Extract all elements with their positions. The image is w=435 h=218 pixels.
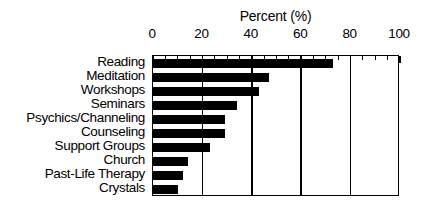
tick-minor-50 xyxy=(276,56,277,60)
tick-major-60 xyxy=(300,56,302,63)
bar xyxy=(153,157,188,166)
bars-layer xyxy=(153,56,398,195)
bar xyxy=(153,171,183,180)
tick-major-40 xyxy=(251,56,253,63)
x-axis-tick-labels: 020406080100 xyxy=(0,26,435,42)
tick-minor-70 xyxy=(325,56,326,60)
category-label: Reading xyxy=(97,55,145,69)
bar-chart: Percent (%) 020406080100 ReadingMeditati… xyxy=(0,0,435,218)
gridline-20 xyxy=(202,56,204,195)
x-tick-label-0: 0 xyxy=(148,26,155,42)
bar xyxy=(153,115,225,124)
tick-minor-35 xyxy=(239,56,240,60)
x-axis-title: Percent (%) xyxy=(152,8,399,24)
bar xyxy=(153,87,259,96)
category-label: Meditation xyxy=(86,69,145,83)
tick-minor-65 xyxy=(313,56,314,60)
category-label: Psychics/Channeling xyxy=(26,111,145,125)
tick-minor-10 xyxy=(177,56,178,60)
gridline-60 xyxy=(300,56,302,195)
y-axis-category-labels: ReadingMeditationWorkshopsSeminarsPsychi… xyxy=(0,55,149,196)
category-label: Workshops xyxy=(81,83,145,97)
gridline-40 xyxy=(251,56,253,195)
gridline-80 xyxy=(350,56,352,195)
plot-area xyxy=(152,55,399,196)
x-tick-label-100: 100 xyxy=(388,26,410,42)
tick-minor-30 xyxy=(227,56,228,60)
tick-major-0 xyxy=(152,56,154,63)
tick-minor-5 xyxy=(165,56,166,60)
tick-minor-85 xyxy=(362,56,363,60)
tick-minor-75 xyxy=(338,56,339,60)
bar xyxy=(153,129,225,138)
tick-major-100 xyxy=(399,56,401,63)
tick-major-20 xyxy=(202,56,204,63)
tick-minor-90 xyxy=(375,56,376,60)
category-label: Support Groups xyxy=(55,139,145,153)
tick-major-80 xyxy=(350,56,352,63)
category-label: Seminars xyxy=(91,97,145,111)
tick-minor-45 xyxy=(264,56,265,60)
x-tick-label-60: 60 xyxy=(293,26,307,42)
tick-minor-15 xyxy=(190,56,191,60)
bar xyxy=(153,101,237,110)
tick-minor-25 xyxy=(214,56,215,60)
bar xyxy=(153,59,333,68)
category-label: Past-Life Therapy xyxy=(45,167,145,181)
x-tick-label-20: 20 xyxy=(194,26,208,42)
tick-minor-55 xyxy=(288,56,289,60)
category-label: Counseling xyxy=(81,125,145,139)
category-label: Crystals xyxy=(99,181,145,195)
tick-minor-95 xyxy=(387,56,388,60)
bar xyxy=(153,185,178,194)
category-label: Church xyxy=(104,153,145,167)
x-tick-label-80: 80 xyxy=(342,26,356,42)
x-tick-label-40: 40 xyxy=(244,26,258,42)
